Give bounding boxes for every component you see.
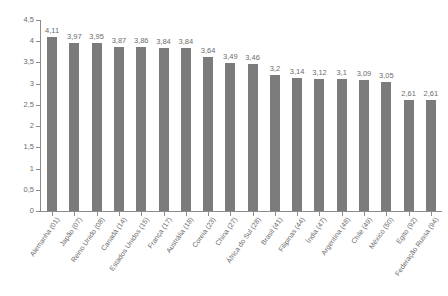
bar-item: 3,1 [331,20,353,211]
bar [159,48,169,211]
bar-value-label: 3,64 [201,47,216,55]
y-axis-tick-label: 0 [4,207,34,215]
bar-item: 4,11 [41,20,63,211]
bar [248,64,258,211]
bar-item: 3,46 [242,20,264,211]
bar-item: 2,61 [397,20,419,211]
x-axis-category-label: Alemanha (01) [29,216,62,258]
bar-item: 3,64 [197,20,219,211]
bar-value-label: 2,61 [424,90,439,98]
bar [426,100,436,211]
bar [404,100,414,211]
bar-item: 3,2 [264,20,286,211]
bar-value-label: 4,11 [45,27,59,35]
bar-value-label: 3,97 [67,33,82,41]
y-axis-tick-label: 1,5 [4,143,34,151]
bar [225,63,235,211]
bar-value-label: 2,61 [401,90,416,98]
x-axis-category-label: Federação Russa (94) [394,216,441,278]
y-axis-tick-label: 3 [4,80,34,88]
bar-item: 3,97 [63,20,85,211]
bar [181,48,191,211]
bar [136,47,146,211]
x-axis-category-label: Índia (47) [305,216,329,245]
bar-value-label: 3,12 [312,69,327,77]
bar-value-label: 3,49 [223,53,238,61]
bar-value-label: 3,46 [245,54,260,62]
bar-item: 3,95 [86,20,108,211]
x-axis-line [40,211,442,212]
y-axis-tick-label: 4,5 [4,16,34,24]
bar [270,75,280,211]
bar [337,79,347,211]
y-axis-tick-label: 0,5 [4,186,34,194]
bar-value-label: 3,84 [156,38,171,46]
bar [203,57,213,211]
bar-value-label: 3,95 [89,33,104,41]
bar-item: 3,84 [152,20,174,211]
x-axis-category-label: Coreia (23) [191,216,218,249]
bar-item: 2,61 [420,20,442,211]
bar [114,47,124,211]
y-axis-tick-label: 2 [4,122,34,130]
bar-value-label: 3,09 [357,70,372,78]
bar-value-label: 3,2 [270,65,280,73]
bar-chart: 00,511,522,533,544,5 4,113,973,953,873,8… [0,0,448,296]
bar-series: 4,113,973,953,873,863,843,843,643,493,46… [41,20,442,211]
y-axis-tick [36,211,41,212]
x-axis-category-labels: Alemanha (01)Japão (07)Reino Unido (08)C… [0,216,448,296]
bar [47,37,57,211]
y-axis-tick-label: 1 [4,165,34,173]
y-axis-tick-label: 4 [4,37,34,45]
bar [92,43,102,211]
bar [69,43,79,212]
bar [381,82,391,211]
bar-item: 3,14 [286,20,308,211]
bar [314,79,324,211]
bar-value-label: 3,05 [379,72,394,80]
bar-value-label: 3,14 [290,68,305,76]
bar-item: 3,84 [175,20,197,211]
bar-value-label: 3,86 [134,37,149,45]
bar [359,80,369,211]
bar-item: 3,86 [130,20,152,211]
bar-item: 3,87 [108,20,130,211]
y-axis-tick-label: 2,5 [4,101,34,109]
bar-item: 3,49 [219,20,241,211]
bar-item: 3,09 [353,20,375,211]
bar-value-label: 3,84 [178,38,193,46]
y-axis-tick-label: 3,5 [4,58,34,66]
bar-value-label: 3,87 [112,37,127,45]
bar-value-label: 3,1 [337,69,347,77]
bar [292,78,302,211]
bar-item: 3,12 [308,20,330,211]
bar-item: 3,05 [375,20,397,211]
